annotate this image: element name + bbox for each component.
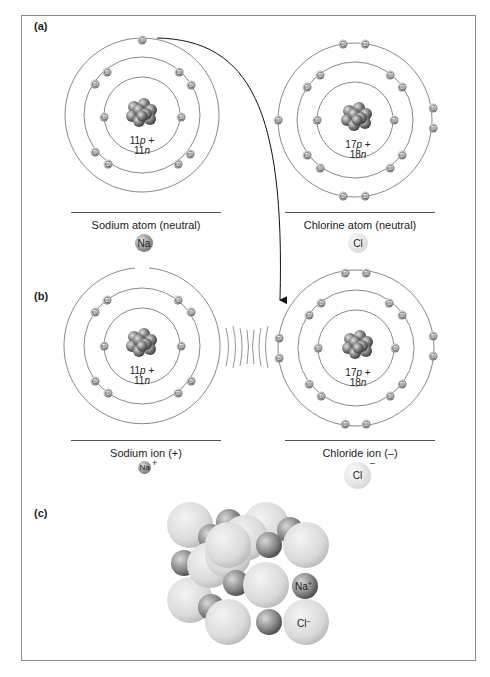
sodium-atom — [65, 36, 219, 193]
lattice-cl-label: Cl– — [297, 617, 310, 629]
chloride-ion-title: Chloride ion (–) — [285, 447, 435, 459]
divider — [285, 440, 435, 441]
chlorine-symbol-badge: Cl — [348, 233, 368, 253]
chlorine-atom — [274, 40, 438, 201]
sodium-symbol-badge: Na — [135, 234, 153, 252]
chlorine-atom-title: Chlorine atom (neutral) — [285, 219, 435, 231]
chloride-ion-nucleus-label: 17p + 18n — [338, 368, 378, 388]
chloride-ion — [275, 269, 438, 429]
chloride-ion-symbol-badge: Cl — [344, 462, 371, 489]
sodium-atom-title: Sodium atom (neutral) — [71, 219, 221, 231]
lattice-na-label: Na+ — [295, 580, 312, 592]
sodium-ion-nucleus-label: 11p + 11n — [122, 366, 162, 386]
attraction-lines — [226, 326, 268, 368]
chloride-ion-charge: – — [370, 458, 375, 468]
sodium-atom-nucleus-label: 11p + 11n — [122, 136, 162, 156]
diagram-canvas — [0, 0, 490, 677]
divider — [71, 440, 221, 441]
chlorine-atom-nucleus-label: 17p + 18n — [338, 140, 378, 160]
sodium-ion-charge: + — [152, 458, 157, 468]
sodium-ion — [64, 268, 220, 424]
divider — [71, 212, 221, 213]
divider — [285, 212, 435, 213]
sodium-ion-symbol-badge: Na — [138, 461, 151, 474]
sodium-ion-title: Sodium ion (+) — [71, 447, 221, 459]
electron-transfer-arrow — [157, 38, 280, 300]
